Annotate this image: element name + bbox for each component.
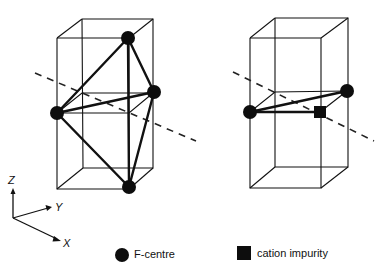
right-triangle-bonds: [250, 91, 347, 112]
z-arrow-icon: [11, 188, 16, 194]
legend-cation-impurity-icon: [237, 246, 251, 260]
f-centre-atom-right-panel-left: [243, 105, 257, 119]
f-centre-atom-bottom: [122, 180, 136, 194]
f-centre-atom-right-panel-right: [340, 84, 354, 98]
f-centre-atom-top: [121, 31, 135, 45]
z-axis-label: Z: [8, 175, 15, 186]
cation-impurity-square: [314, 106, 326, 118]
x-arrow-icon: [53, 236, 62, 242]
y-axis: [13, 208, 48, 218]
legend-cation-impurity-label: cation impurity: [257, 248, 328, 259]
x-axis: [13, 218, 57, 239]
right-unit-cell: [250, 18, 348, 188]
y-axis-label: Y: [55, 202, 62, 213]
x-axis-label: X: [63, 238, 70, 249]
f-centre-atom-left: [50, 106, 64, 120]
legend-f-centre-icon: [115, 248, 129, 262]
f-centre-atom-right: [147, 85, 161, 99]
coordinate-axes: [11, 188, 62, 242]
y-arrow-icon: [46, 205, 53, 211]
legend-f-centre-label: F-centre: [134, 249, 175, 260]
diagram-canvas: [0, 0, 381, 269]
